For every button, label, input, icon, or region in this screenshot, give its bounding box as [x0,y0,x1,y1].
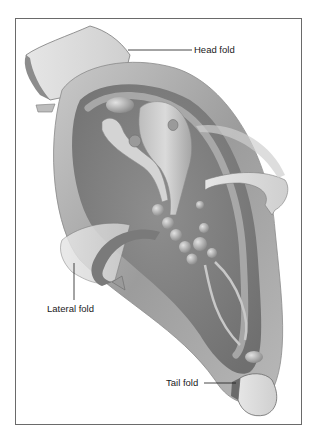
head-fold-label: Head fold [194,45,235,55]
lateral-fold-label: Lateral fold [47,304,94,314]
tail-fold-label: Tail fold [166,378,198,388]
embryo-illustration [0,0,312,436]
tail-fold-ribbon [231,374,277,416]
